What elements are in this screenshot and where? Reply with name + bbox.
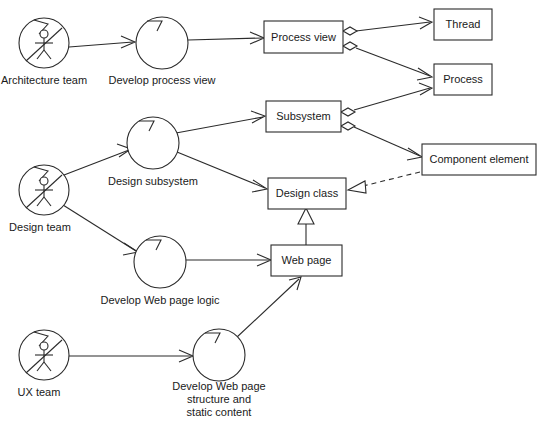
class-web-page[interactable]: Web page xyxy=(271,245,342,276)
activity-design-subsystem-label: Design subsystem xyxy=(108,175,198,187)
actor-architecture-team-label: Architecture team xyxy=(1,74,87,86)
class-process-view[interactable]: Process view xyxy=(264,21,343,53)
class-thread[interactable]: Thread xyxy=(434,9,492,40)
actor-ux-team[interactable]: UX team xyxy=(18,330,69,398)
activity-develop-web-page-structure-label-line3: static content xyxy=(187,406,252,418)
class-web-page-label: Web page xyxy=(282,254,332,266)
activity-develop-web-page-structure-label-line1: Develop Web page xyxy=(172,380,265,392)
edge-subsystem-to-component-element xyxy=(341,122,422,160)
class-process-label: Process xyxy=(443,73,483,85)
edge-subsystem-to-process xyxy=(341,83,432,116)
activity-develop-process-view-label: Develop process view xyxy=(109,74,216,86)
class-process[interactable]: Process xyxy=(434,64,492,95)
actor-design-team[interactable]: Design team xyxy=(9,165,71,233)
activity-develop-web-page-logic-label: Develop Web page logic xyxy=(100,294,220,306)
edge-develop-web-page-logic-to-web-page xyxy=(186,254,271,266)
diagram-canvas: Architecture team Design team UX team De… xyxy=(0,0,542,428)
edge-design-team-to-design-subsystem xyxy=(64,144,131,175)
uml-diagram-root: Architecture team Design team UX team De… xyxy=(0,0,542,428)
edge-design-subsystem-to-subsystem xyxy=(176,111,265,133)
edge-process-view-to-thread xyxy=(343,17,432,35)
activity-develop-web-page-structure-label-line2: structure and xyxy=(187,393,251,405)
activity-develop-process-view[interactable]: Develop process view xyxy=(109,17,216,86)
activity-design-subsystem[interactable]: Design subsystem xyxy=(108,117,198,187)
edge-web-page-to-design-class xyxy=(298,208,314,245)
edge-process-view-to-process xyxy=(343,42,432,80)
actor-architecture-team[interactable]: Architecture team xyxy=(1,18,87,86)
actor-design-team-label: Design team xyxy=(9,221,71,233)
class-component-element-label: Component element xyxy=(429,153,528,165)
edge-develop-process-view-to-process-view xyxy=(188,32,264,44)
class-component-element[interactable]: Component element xyxy=(422,144,536,175)
class-thread-label: Thread xyxy=(446,18,481,30)
edge-architecture-team-to-develop-process-view xyxy=(69,36,135,48)
class-design-class-label: Design class xyxy=(276,187,339,199)
edge-component-element-to-design-class xyxy=(348,172,420,193)
activity-develop-web-page-structure[interactable]: Develop Web page structure and static co… xyxy=(172,329,265,418)
class-subsystem[interactable]: Subsystem xyxy=(266,101,341,132)
activity-develop-web-page-logic[interactable]: Develop Web page logic xyxy=(100,236,220,306)
edge-develop-web-page-structure-to-web-page xyxy=(236,277,301,338)
class-design-class[interactable]: Design class xyxy=(268,178,346,209)
class-process-view-label: Process view xyxy=(271,31,336,43)
edge-ux-team-to-develop-web-page-structure xyxy=(69,350,193,362)
edge-design-team-to-develop-web-page-logic xyxy=(63,205,138,255)
class-subsystem-label: Subsystem xyxy=(276,110,330,122)
actor-ux-team-label: UX team xyxy=(18,386,61,398)
